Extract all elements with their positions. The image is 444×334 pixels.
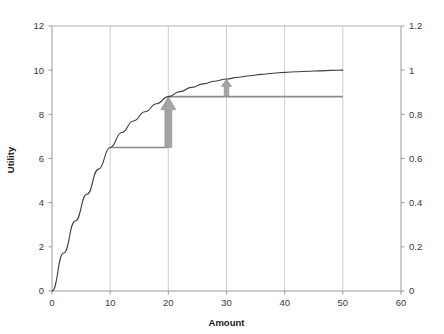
right-tick-label-6: 1.2 bbox=[409, 20, 422, 31]
left-tick-label-8: 8 bbox=[39, 109, 44, 120]
left-tick-label-12: 12 bbox=[33, 20, 44, 31]
left-tick-label-6: 6 bbox=[39, 153, 44, 164]
x-tick-label-30: 30 bbox=[221, 297, 232, 308]
x-tick-label-40: 40 bbox=[279, 297, 290, 308]
x-tick-label-60: 60 bbox=[396, 297, 407, 308]
left-tick-label-0: 0 bbox=[39, 285, 44, 296]
x-axis-title: Amount bbox=[209, 317, 246, 328]
x-tick-label-20: 20 bbox=[163, 297, 174, 308]
utility-chart: 024681012 00.20.40.60.811.2 010203040506… bbox=[0, 0, 444, 334]
x-tick-label-0: 0 bbox=[49, 297, 54, 308]
right-tick-label-0: 0 bbox=[409, 285, 414, 296]
right-tick-label-3: 0.6 bbox=[409, 153, 422, 164]
y-axis-title: Utility bbox=[5, 146, 16, 173]
chart-figure: 024681012 00.20.40.60.811.2 010203040506… bbox=[0, 0, 444, 334]
x-tick-label-10: 10 bbox=[105, 297, 116, 308]
x-tick-label-50: 50 bbox=[338, 297, 349, 308]
right-tick-label-5: 1 bbox=[409, 65, 414, 76]
left-tick-label-10: 10 bbox=[33, 65, 44, 76]
left-tick-label-2: 2 bbox=[39, 241, 44, 252]
chart-background bbox=[0, 0, 444, 334]
right-tick-label-2: 0.4 bbox=[409, 197, 422, 208]
left-tick-label-4: 4 bbox=[39, 197, 44, 208]
right-tick-label-1: 0.2 bbox=[409, 241, 422, 252]
right-tick-label-4: 0.8 bbox=[409, 109, 422, 120]
